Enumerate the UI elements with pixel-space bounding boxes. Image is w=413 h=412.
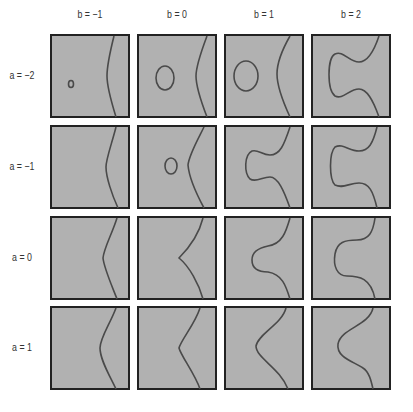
panel-a-neg2-b-1 [224, 34, 304, 118]
panel-a-1-b-1 [224, 306, 304, 390]
col-label-b-neg1: b = −1 [58, 8, 122, 20]
col-label-b-1: b = 1 [232, 8, 296, 20]
panel-a-neg2-b-0 [137, 34, 217, 118]
col-label-b-2: b = 2 [319, 8, 383, 20]
panel-a-0-b-1 [224, 216, 304, 300]
panel-a-1-b-neg1 [50, 306, 130, 390]
row-label-a-0: a = 0 [4, 251, 39, 263]
panel-a-1-b-2 [311, 306, 391, 390]
panel-a-neg2-b-2 [311, 34, 391, 118]
row-label-a-neg1: a = −1 [4, 160, 39, 172]
panel-a-neg1-b-neg1 [50, 125, 130, 209]
row-label-a-1: a = 1 [4, 341, 39, 353]
panel-a-neg1-b-2 [311, 125, 391, 209]
col-label-b-0: b = 0 [145, 8, 209, 20]
panel-a-1-b-0 [137, 306, 217, 390]
panel-a-neg1-b-0 [137, 125, 217, 209]
panel-a-0-b-neg1 [50, 216, 130, 300]
panel-a-0-b-2 [311, 216, 391, 300]
panel-a-0-b-0 [137, 216, 217, 300]
row-label-a-neg2: a = −2 [4, 69, 39, 81]
panel-a-neg2-b-neg1 [50, 34, 130, 118]
panel-a-neg1-b-1 [224, 125, 304, 209]
